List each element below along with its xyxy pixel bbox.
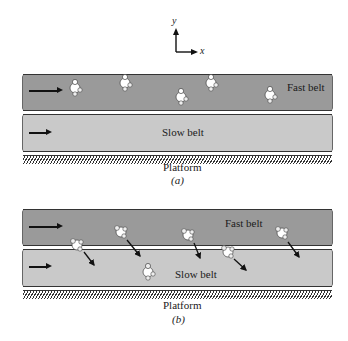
person-icon — [182, 229, 195, 242]
velocity-arrow-icon — [234, 259, 246, 270]
person-icon — [115, 226, 128, 239]
people-b — [0, 0, 348, 341]
person-icon — [276, 227, 289, 240]
person-icon — [71, 239, 84, 252]
velocity-arrow-icon — [288, 242, 299, 257]
velocity-arrow-icon — [194, 243, 200, 258]
velocity-arrow-icon — [127, 240, 140, 256]
person-icon — [222, 246, 235, 259]
velocity-arrow-icon — [84, 252, 94, 265]
person-icon — [143, 263, 155, 280]
